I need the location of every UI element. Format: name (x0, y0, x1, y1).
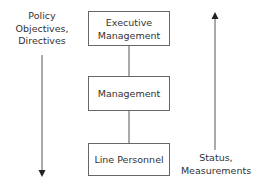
status-text: Status, (175, 152, 257, 165)
measurements-text: Measurements (175, 165, 257, 178)
up-arrow-head-icon (212, 12, 219, 19)
management-label: Management (98, 87, 161, 100)
executive-management-box: Executive Management (88, 11, 170, 46)
line-personnel-label: Line Personnel (94, 153, 163, 166)
executive-label-line1: Executive (98, 16, 161, 29)
policy-text: Policy (2, 10, 82, 23)
executive-label-line2: Management (98, 29, 161, 42)
status-measurements-label: Status, Measurements (175, 152, 257, 177)
down-arrow-head-icon (39, 170, 46, 177)
objectives-text: Objectives, (2, 23, 82, 36)
directives-text: Directives (2, 35, 82, 48)
policy-objectives-label: Policy Objectives, Directives (2, 10, 82, 48)
line-personnel-box: Line Personnel (88, 143, 170, 176)
management-box: Management (88, 76, 170, 111)
